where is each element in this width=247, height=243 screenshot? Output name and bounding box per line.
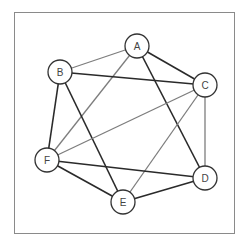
- edge-e-f: [47, 160, 123, 202]
- node-label: A: [134, 41, 141, 52]
- node-e: E: [111, 190, 135, 214]
- edge-c-e: [123, 85, 205, 202]
- edge-c-f: [47, 85, 205, 160]
- nodes-group: ABCDEF: [35, 34, 217, 214]
- edge-b-c: [60, 72, 205, 85]
- graph-diagram: ABCDEF: [0, 0, 247, 243]
- node-label: D: [201, 173, 208, 184]
- node-d: D: [193, 166, 217, 190]
- node-a: A: [125, 34, 149, 58]
- node-label: B: [57, 67, 64, 78]
- node-f: F: [35, 148, 59, 172]
- node-label: C: [201, 80, 208, 91]
- node-b: B: [48, 60, 72, 84]
- edge-d-f: [47, 160, 205, 178]
- node-label: F: [44, 155, 50, 166]
- node-label: E: [120, 197, 127, 208]
- node-c: C: [193, 73, 217, 97]
- edge-d-e: [123, 178, 205, 202]
- edge-b-e: [60, 72, 123, 202]
